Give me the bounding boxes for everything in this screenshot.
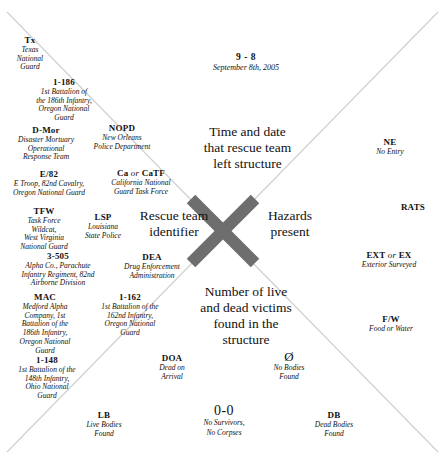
team-entry-tx: Tx Texas National Guard bbox=[0, 36, 60, 72]
team-entry-dea: DEA Drug Enforcement Administration bbox=[108, 253, 196, 280]
team-entry-mac: MAC Medford Alpha Company, 1st Battalion… bbox=[0, 293, 90, 356]
team-entry-3-505: 3-505 Alpha Co., Parachute Infantry Regi… bbox=[0, 252, 116, 288]
team-abbr-conjunction: or bbox=[131, 168, 139, 178]
team-desc-line: Oregon National Guard bbox=[0, 189, 98, 198]
team-desc-line: National Guard bbox=[4, 243, 84, 252]
victim-abbr: 0-0 bbox=[182, 403, 266, 418]
team-abbr-part-1: Ca bbox=[117, 168, 128, 178]
caption-right-line-1: Hazards bbox=[268, 208, 312, 223]
caption-bottom: Number of live and dead victims found in… bbox=[156, 284, 336, 348]
team-desc-line: Police Department bbox=[79, 143, 165, 152]
team-desc-line: Guard bbox=[12, 114, 116, 123]
caption-left-line-1: Rescue team bbox=[140, 208, 209, 223]
victim-desc-line: Found bbox=[68, 430, 140, 439]
victim-desc-line: No Corpses bbox=[182, 429, 266, 438]
caption-bottom-line-2: and dead victims bbox=[200, 300, 291, 315]
date-meaning: September 8th, 2005 bbox=[186, 63, 306, 72]
hazard-desc-line: Food or Water bbox=[346, 325, 436, 334]
hazard-entry-ne: NE No Entry bbox=[352, 138, 428, 157]
date-code: 9 - 8 bbox=[186, 52, 306, 62]
hazard-entry-f-w: F/W Food or Water bbox=[346, 315, 436, 334]
caption-bottom-line-3: found in the bbox=[213, 316, 278, 331]
victim-desc-line: No Survivors, bbox=[182, 419, 266, 428]
hazard-abbr-conjunction: or bbox=[388, 250, 396, 260]
hazard-desc-line: Exterior Surveyed bbox=[338, 261, 440, 270]
victim-desc-line: Found bbox=[254, 373, 324, 382]
victim-desc-line: Arrival bbox=[138, 373, 206, 382]
team-abbr-part-2: CaTF bbox=[142, 168, 165, 178]
caption-top: Time and date that rescue team left stru… bbox=[160, 124, 335, 172]
victim-abbr: Ø bbox=[254, 350, 324, 364]
team-desc-line: Guard bbox=[0, 392, 94, 401]
hazard-abbr-part-2: EX bbox=[399, 250, 412, 260]
victim-entry-no-bodies: Ø No Bodies Found bbox=[254, 350, 324, 382]
victim-entry-lb: LB Live Bodies Found bbox=[68, 411, 140, 438]
rescue-marking-diagram: 9 - 8 September 8th, 2005 Time and date … bbox=[0, 0, 445, 470]
team-entry-1-148: 1-148 1st Battalion of the 148th Infantr… bbox=[0, 356, 94, 401]
victim-entry-0-0: 0-0 No Survivors, No Corpses bbox=[182, 403, 266, 438]
hazard-entry-rats: RATS bbox=[388, 203, 438, 213]
caption-top-line-1: Time and date bbox=[209, 124, 286, 139]
hazard-abbr: RATS bbox=[388, 203, 438, 213]
team-desc-line: Airborne Division bbox=[0, 279, 116, 288]
caption-bottom-line-1: Number of live bbox=[205, 284, 287, 299]
caption-right-line-2: present bbox=[271, 224, 310, 239]
hazard-entry-ext-ex: EXT or EX Exterior Surveyed bbox=[338, 251, 440, 270]
hazard-abbr-part-1: EXT bbox=[366, 250, 385, 260]
team-entry-1-186: 1-186 1st Battalion of the 186th Infantr… bbox=[12, 78, 116, 123]
caption-top-line-3: left structure bbox=[213, 156, 282, 171]
team-desc-line: Response Team bbox=[0, 153, 92, 162]
caption-left-line-2: identifier bbox=[149, 224, 198, 239]
victim-desc-line: Found bbox=[294, 430, 374, 439]
caption-right: Hazards present bbox=[232, 208, 348, 240]
caption-left: Rescue team identifier bbox=[110, 208, 238, 240]
date-example: 9 - 8 September 8th, 2005 bbox=[186, 52, 306, 72]
team-desc-line: Administration bbox=[108, 272, 196, 281]
hazard-desc-line: No Entry bbox=[352, 148, 428, 157]
victim-entry-db: DB Dead Bodies Found bbox=[294, 411, 374, 438]
victim-entry-doa: DOA Dead on Arrival bbox=[138, 354, 206, 381]
caption-top-line-2: that rescue team bbox=[204, 140, 292, 155]
team-entry-nopd: NOPD New Orleans Police Department bbox=[79, 124, 165, 151]
team-desc-line: Guard bbox=[0, 63, 60, 72]
caption-bottom-line-4: structure bbox=[222, 332, 269, 347]
team-entry-ca-catf: Ca or CaTF California National Guard Tas… bbox=[96, 169, 186, 196]
team-desc-line: Guard Task Force bbox=[96, 188, 186, 197]
team-entry-e-82: E/82 E Troop, 82nd Cavalry, Oregon Natio… bbox=[0, 170, 98, 197]
